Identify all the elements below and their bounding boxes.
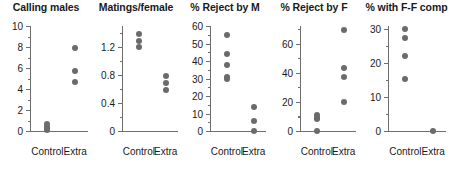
x-axis-line: [30, 131, 88, 132]
data-point: [341, 74, 347, 80]
y-tick-major: [384, 63, 388, 64]
y-tick-minor: [298, 87, 301, 88]
y-tick-label: 0: [0, 126, 23, 137]
chart-panel-1: Calling males0246810ControlExtra: [0, 0, 92, 179]
y-tick-label: 60: [177, 21, 203, 32]
data-point: [314, 128, 320, 134]
data-point: [251, 104, 257, 110]
scatter-panel-figure: Calling males0246810ControlExtraMatings/…: [0, 0, 455, 179]
y-axis-line: [122, 26, 123, 131]
y-tick-major: [118, 103, 122, 104]
y-tick-major: [26, 68, 30, 69]
x-tick-label-control: Control: [31, 146, 63, 157]
y-tick-minor: [120, 117, 123, 118]
y-tick-major: [206, 96, 210, 97]
y-axis-line: [210, 26, 211, 131]
y-tick-major: [206, 26, 210, 27]
y-tick-minor: [208, 52, 211, 53]
x-tick-label-control: Control: [301, 146, 333, 157]
y-tick-major: [26, 110, 30, 111]
y-tick-minor: [386, 46, 389, 47]
x-axis-line: [122, 131, 178, 132]
chart-panel-5: % with F-F comp0102030ControlExtra: [358, 0, 455, 179]
plot-area: 0204060ControlExtra: [268, 0, 360, 179]
x-axis-line: [388, 131, 446, 132]
y-tick-major: [296, 131, 300, 132]
x-tick-label-extra: Extra: [242, 146, 265, 157]
x-tick-label-extra: Extra: [64, 146, 87, 157]
data-point: [402, 53, 408, 59]
data-point: [136, 44, 142, 50]
y-tick-minor: [298, 29, 301, 30]
y-tick-label: 50: [177, 38, 203, 49]
y-tick-minor: [28, 58, 31, 59]
y-tick-major: [296, 44, 300, 45]
chart-panel-4: % Reject by F0204060ControlExtra: [268, 0, 360, 179]
data-point: [163, 80, 169, 86]
x-tick-label-control: Control: [123, 146, 155, 157]
data-point: [44, 127, 50, 133]
chart-panel-3: % Reject by M0102030405060ControlExtra: [180, 0, 270, 179]
y-tick-major: [384, 29, 388, 30]
y-tick-label: 8: [0, 42, 23, 53]
y-tick-major: [206, 114, 210, 115]
plot-area: 0246810ControlExtra: [0, 0, 92, 179]
y-tick-label: 4: [0, 84, 23, 95]
y-tick-major: [26, 26, 30, 27]
y-tick-minor: [386, 114, 389, 115]
y-tick-label: 6: [0, 63, 23, 74]
y-tick-label: 0.8: [89, 70, 115, 81]
data-point: [72, 45, 78, 51]
y-tick-minor: [28, 37, 31, 38]
data-point: [163, 73, 169, 79]
y-tick-minor: [120, 89, 123, 90]
y-tick-minor: [208, 87, 211, 88]
y-tick-major: [118, 47, 122, 48]
y-tick-major: [206, 44, 210, 45]
x-tick-label-control: Control: [389, 146, 421, 157]
data-point: [251, 128, 257, 134]
y-tick-label: 10: [355, 92, 381, 103]
y-tick-label: 10: [0, 21, 23, 32]
x-tick-label-extra: Extra: [332, 146, 355, 157]
data-point: [163, 87, 169, 93]
y-tick-label: 40: [177, 56, 203, 67]
data-point: [402, 26, 408, 32]
y-tick-minor: [208, 70, 211, 71]
data-point: [341, 65, 347, 71]
y-tick-label: 0: [355, 126, 381, 137]
y-axis-line: [30, 26, 31, 131]
y-tick-major: [118, 131, 122, 132]
data-point: [402, 76, 408, 82]
y-tick-major: [384, 131, 388, 132]
y-tick-major: [26, 89, 30, 90]
y-tick-label: 2: [0, 105, 23, 116]
data-point: [224, 32, 230, 38]
y-tick-label: 60: [267, 38, 293, 49]
y-tick-minor: [120, 61, 123, 62]
y-tick-major: [296, 73, 300, 74]
data-point: [341, 27, 347, 33]
x-tick-label-extra: Extra: [422, 146, 445, 157]
x-axis-line: [300, 131, 356, 132]
y-tick-major: [26, 131, 30, 132]
y-tick-label: 0.4: [89, 98, 115, 109]
x-tick-label-control: Control: [211, 146, 243, 157]
chart-panel-2: Matings/female00.40.81.2ControlExtra: [90, 0, 182, 179]
data-point: [72, 79, 78, 85]
y-tick-label: 30: [355, 24, 381, 35]
data-point: [224, 51, 230, 57]
plot-area: 00.40.81.2ControlExtra: [90, 0, 182, 179]
y-tick-label: 0: [177, 126, 203, 137]
y-tick-minor: [28, 79, 31, 80]
y-tick-major: [384, 97, 388, 98]
y-tick-minor: [28, 121, 31, 122]
y-tick-label: 1.2: [89, 42, 115, 53]
data-point: [251, 118, 257, 124]
y-tick-label: 20: [355, 58, 381, 69]
y-tick-minor: [120, 33, 123, 34]
y-tick-label: 40: [267, 67, 293, 78]
y-tick-major: [206, 131, 210, 132]
y-tick-minor: [298, 116, 301, 117]
x-axis-line: [210, 131, 266, 132]
